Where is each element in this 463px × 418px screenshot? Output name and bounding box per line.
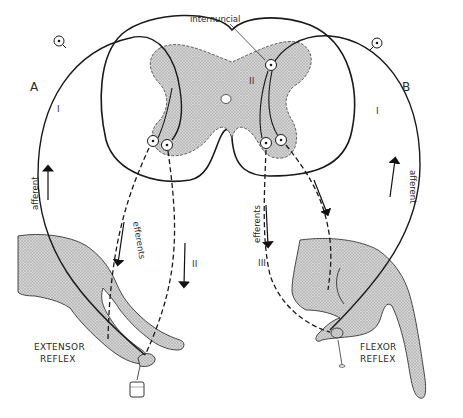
- efferent-arrow-a1: [118, 222, 124, 263]
- afferent-label-a: afferent: [30, 176, 40, 210]
- extensor-paw: [138, 354, 155, 367]
- flexor-limb: [292, 238, 426, 398]
- neuron-number-b-internuncial: II: [249, 76, 254, 86]
- efferent-arrow-b2: [314, 180, 327, 213]
- reflex-arc-diagram: internuncial A B I I II II III afferent …: [0, 0, 463, 418]
- efferent-arrow-b1: [266, 205, 268, 245]
- efferents-label-b: efferents: [252, 204, 262, 243]
- neuron-number-a-afferent: I: [57, 104, 60, 114]
- weight-string: [137, 366, 140, 380]
- weight-icon: [130, 382, 144, 397]
- central-canal: [221, 95, 231, 104]
- neuron-number-b-efferent: III: [258, 258, 266, 268]
- pin-icon: [338, 340, 342, 365]
- extensor-caption-line2: REFLEX: [40, 354, 76, 364]
- neuron-number-a-efferent: II: [192, 259, 197, 269]
- panel-label-a: A: [30, 80, 39, 94]
- neuron-number-b-afferent: I: [376, 106, 379, 116]
- flexor-paw: [331, 328, 343, 338]
- panel-label-b: B: [402, 80, 410, 94]
- efferents-label-a: efferents: [131, 221, 148, 261]
- extensor-caption-line1: EXTENSOR: [34, 342, 85, 352]
- efferent-arrow-a2: [184, 243, 185, 285]
- afferent-arrow-b: [390, 160, 395, 197]
- flexor-caption-line1: FLEXOR: [360, 342, 397, 352]
- afferent-label-b: afferent: [408, 170, 418, 204]
- internuncial-label: internuncial: [190, 14, 240, 24]
- flexor-caption-line2: REFLEX: [360, 354, 396, 364]
